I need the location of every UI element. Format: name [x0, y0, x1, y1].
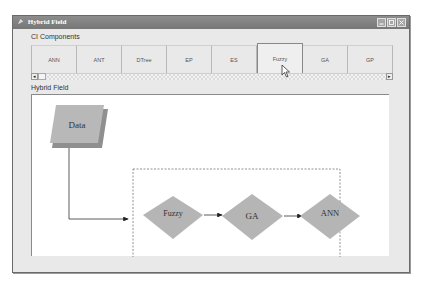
ann-node[interactable]: ANN [300, 194, 360, 239]
data-connector [69, 148, 128, 219]
tab-fuzzy[interactable]: Fuzzy [257, 43, 303, 73]
tab-es[interactable]: ES [212, 45, 257, 73]
arrow-right-icon: ▸ [388, 73, 391, 79]
horizontal-scrollbar[interactable]: ◂ ▸ [31, 73, 393, 80]
ga-node[interactable]: GA [222, 194, 283, 240]
tab-ann[interactable]: ANN [31, 45, 77, 73]
hybrid-diagram: Data Fuzzy GA ANN [32, 95, 390, 257]
fuzzy-node[interactable]: Fuzzy [143, 196, 203, 239]
ann-node-label: ANN [321, 208, 339, 218]
app-icon [17, 18, 24, 25]
ga-node-label: GA [246, 211, 259, 221]
hybrid-field-window: Hybrid Field CI Components ANN ANT DTree… [12, 15, 410, 273]
tab-label: DTree [136, 57, 151, 63]
tab-ant[interactable]: ANT [77, 45, 122, 73]
maximize-button[interactable] [387, 18, 396, 27]
hybrid-field-canvas[interactable]: Data Fuzzy GA ANN [31, 94, 389, 256]
hybrid-field-label: Hybrid Field [31, 84, 68, 91]
tab-ep[interactable]: EP [167, 45, 212, 73]
tab-label: ES [230, 57, 237, 63]
scroll-right-button[interactable]: ▸ [386, 73, 393, 80]
minimize-button[interactable] [377, 18, 386, 27]
fuzzy-node-label: Fuzzy [163, 209, 183, 218]
scroll-left-button[interactable]: ◂ [31, 73, 38, 80]
tab-gp[interactable]: GP [348, 45, 393, 73]
maximize-icon [388, 19, 395, 26]
tab-dtree[interactable]: DTree [122, 45, 167, 73]
mouse-cursor-icon [281, 64, 291, 78]
data-node[interactable]: Data [50, 105, 108, 148]
arrow-left-icon: ◂ [33, 73, 36, 79]
data-node-label: Data [69, 120, 86, 130]
tab-label: ANT [94, 57, 105, 63]
tab-label: Fuzzy [273, 56, 288, 62]
window-title: Hybrid Field [28, 18, 67, 26]
title-bar[interactable]: Hybrid Field [13, 16, 409, 29]
tab-label: EP [185, 57, 192, 63]
tab-label: GP [366, 57, 374, 63]
close-icon [398, 19, 405, 26]
scrollbar-thumb[interactable] [38, 73, 46, 80]
tab-label: GA [321, 57, 329, 63]
ci-components-label: CI Components [31, 33, 80, 40]
close-button[interactable] [397, 18, 406, 27]
minimize-icon [378, 19, 385, 26]
tab-ga[interactable]: GA [303, 45, 348, 73]
tab-label: ANN [48, 57, 60, 63]
ci-components-tabs: ANN ANT DTree EP ES Fuzzy GA GP [31, 45, 393, 73]
